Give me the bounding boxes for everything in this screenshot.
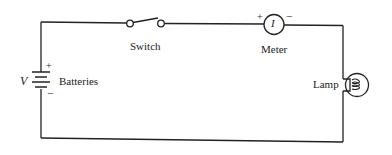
battery-minus-sign: − — [47, 87, 53, 99]
lamp-icon — [343, 74, 369, 97]
meter-label: Meter — [261, 43, 287, 55]
lamp-label: Lamp — [313, 78, 339, 90]
wire-top-left — [41, 22, 127, 23]
wire-top-middle — [165, 24, 265, 25]
meter-minus-sign: − — [286, 10, 292, 22]
battery-plus-sign: + — [46, 60, 52, 71]
voltage-symbol: V — [20, 74, 27, 89]
switch-label: Switch — [130, 40, 161, 52]
wire-bottom — [41, 138, 343, 142]
battery-icon — [32, 72, 50, 87]
batteries-label: Batteries — [59, 75, 98, 87]
wire-top-right — [284, 25, 343, 26]
meter-plus-sign: + — [257, 11, 263, 22]
switch-icon — [127, 18, 165, 27]
meter-symbol: I — [271, 17, 275, 29]
